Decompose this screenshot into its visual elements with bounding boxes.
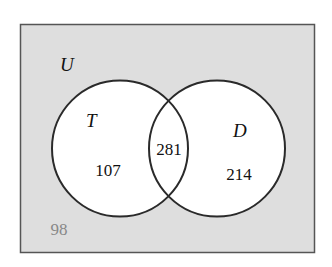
set-d-only-count: 214 <box>226 165 252 184</box>
intersection-count: 281 <box>156 140 182 159</box>
set-d-label: D <box>232 120 247 141</box>
universe-label: U <box>60 54 75 75</box>
venn-diagram: U T D 107 281 214 98 <box>0 0 332 267</box>
set-t-label: T <box>86 110 98 131</box>
set-t-only-count: 107 <box>95 161 121 180</box>
outside-count: 98 <box>51 220 68 239</box>
